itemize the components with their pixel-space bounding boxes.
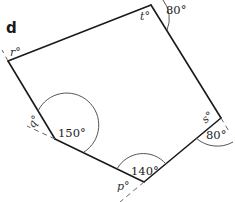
angle-arcs	[38, 0, 233, 169]
pentagon-diagram: r° t° 80° s° 80° 140° p° 150° q°	[0, 0, 235, 202]
label-p-interior: 140°	[131, 164, 159, 178]
side-t-s	[151, 5, 221, 118]
extension-at-r	[2, 50, 8, 61]
label-p-var: p°	[117, 180, 130, 193]
label-s-exterior: 80°	[206, 128, 226, 142]
side-r-t	[8, 5, 151, 61]
arc-q-interior	[38, 93, 99, 152]
label-t-exterior: 80°	[166, 3, 186, 17]
label-t-var: t°	[140, 10, 150, 23]
label-q-interior: 150°	[58, 126, 86, 140]
label-r-var: r°	[10, 46, 21, 59]
polygon-sides	[8, 5, 221, 182]
